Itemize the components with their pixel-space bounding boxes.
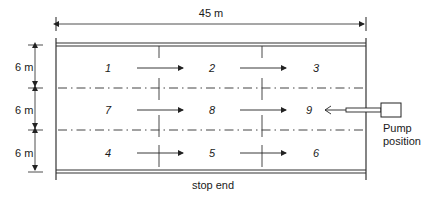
- bay-number: 1: [105, 62, 111, 74]
- width-label: 45 m: [199, 7, 223, 19]
- bay-number: 3: [313, 62, 320, 74]
- bay-number: 4: [105, 147, 111, 159]
- bay-number: 6: [313, 147, 320, 159]
- pump: Pump position: [325, 103, 421, 147]
- bay-number: 7: [105, 104, 112, 116]
- row-height-label: 6 m: [15, 147, 33, 159]
- bay-numbers: 1 2 3 7 8 9 4 5 6: [105, 62, 320, 159]
- stop-end-label: stop end: [192, 179, 234, 191]
- bay-number: 8: [209, 104, 216, 116]
- pump-box: [381, 103, 401, 117]
- pump-label-line2: position: [383, 135, 421, 147]
- width-dimension: 45 m: [56, 7, 366, 31]
- bay-number: 2: [208, 62, 215, 74]
- slab-pour-diagram: 45 m 1 2 3: [0, 0, 428, 201]
- bay-number: 5: [209, 147, 216, 159]
- pump-label-line1: Pump: [383, 122, 412, 134]
- bay-number: 9: [306, 104, 312, 116]
- row-height-label: 6 m: [15, 104, 33, 116]
- height-dimensions: 6 m 6 m 6 m: [15, 45, 43, 172]
- row-height-label: 6 m: [15, 61, 33, 73]
- pump-pipe: [346, 108, 381, 112]
